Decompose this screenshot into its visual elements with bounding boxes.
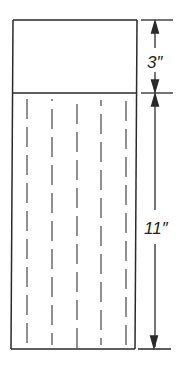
arrow-up-icon — [152, 94, 159, 106]
arrow-down-icon — [152, 80, 159, 92]
fold-lines — [27, 99, 126, 349]
outer-rectangle — [11, 20, 137, 349]
dimension-label-11in: 11″ — [144, 219, 169, 238]
dimension-label-3in: 3″ — [147, 53, 163, 72]
diagram-canvas: 3″ 11″ — [0, 0, 184, 368]
arrow-down-icon — [151, 336, 158, 348]
arrow-up-icon — [152, 21, 159, 33]
